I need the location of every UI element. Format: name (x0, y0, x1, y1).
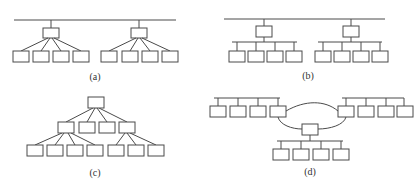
panel-c: (c) (27, 97, 164, 179)
leaf-node (73, 51, 89, 62)
leaf-node (33, 51, 49, 62)
leaf-node (293, 149, 309, 160)
leaf-node (210, 106, 226, 117)
leaf-node (87, 145, 103, 156)
ring-link-right (318, 117, 346, 129)
leaf-node (128, 145, 144, 156)
leaf-node (397, 106, 413, 117)
leaf-node (108, 145, 124, 156)
leaf-node (229, 51, 245, 62)
branch-node (119, 122, 135, 133)
leaf-node (353, 51, 369, 62)
leaf-node (315, 51, 331, 62)
hub-node (256, 26, 272, 37)
leaf-node (162, 51, 178, 62)
panel-d: (d) (210, 98, 413, 178)
leaf-node (13, 51, 29, 62)
panel-a: (a) (13, 20, 178, 83)
leaf-node (313, 149, 329, 160)
ring-gateway-node (302, 124, 318, 135)
ring-gateway-node (338, 106, 354, 117)
leaf-node (148, 145, 164, 156)
branch-node (99, 122, 115, 133)
ring-link-top (286, 103, 338, 111)
panel-label: (a) (89, 71, 100, 83)
leaf-node (67, 145, 83, 156)
panel-label: (c) (89, 167, 100, 179)
leaf-node (122, 51, 138, 62)
leaf-node (286, 51, 302, 62)
leaf-node (273, 149, 289, 160)
ring-gateway-node (270, 106, 286, 117)
root-node (88, 97, 104, 108)
network-topology-figure: (a) (b) (0, 0, 417, 190)
leaf-node (27, 145, 43, 156)
leaf-node (372, 51, 388, 62)
branch-node (58, 122, 74, 133)
leaf-node (250, 106, 266, 117)
leaf-node (47, 145, 63, 156)
panel-label: (b) (302, 70, 314, 82)
leaf-node (101, 51, 117, 62)
leaf-node (333, 149, 349, 160)
panel-b: (b) (224, 19, 388, 82)
leaf-node (358, 106, 374, 117)
leaf-node (267, 51, 283, 62)
branch-node (79, 122, 95, 133)
leaf-node (53, 51, 69, 62)
panel-label: (d) (304, 166, 316, 178)
leaf-node (334, 51, 350, 62)
leaf-node (230, 106, 246, 117)
leaf-node (378, 106, 394, 117)
leaf-node (248, 51, 264, 62)
ring-link-left (278, 117, 302, 129)
hub-node (43, 28, 59, 38)
leaf-node (142, 51, 158, 62)
hub-node (131, 28, 147, 38)
hub-node (343, 26, 359, 37)
